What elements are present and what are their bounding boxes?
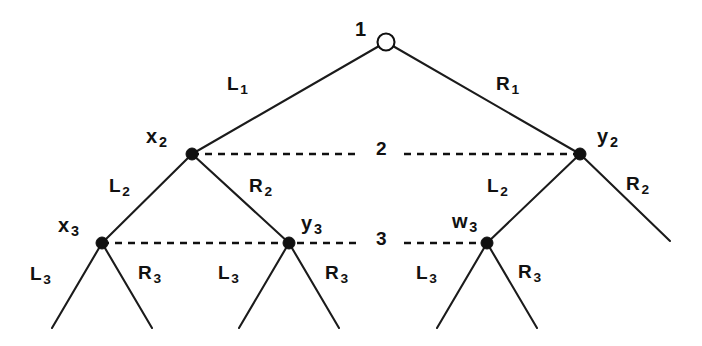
edge-label-R2-right-sub: 2 — [641, 182, 649, 197]
edge-label-R2-right-text: R — [626, 173, 640, 194]
edge-label-L1-text: L — [227, 73, 239, 94]
level-2-link-label: 2 — [376, 139, 387, 158]
node-label-x2-sub: 2 — [159, 134, 168, 150]
node-label-w3: w3 — [452, 211, 477, 231]
edge-L3-a — [52, 243, 102, 328]
tree-nodes — [96, 34, 586, 250]
node-label-y2: y2 — [597, 126, 617, 146]
edge-label-R3-c-text: R — [518, 261, 532, 282]
node-label-x3: x3 — [58, 215, 78, 235]
tree-diagram-figure: 1 x2 y2 x3 y3 w3 L1 R1 L2 R2 L2 R2 L3 R3… — [0, 0, 702, 346]
node-w3[interactable] — [481, 237, 493, 249]
edge-label-L3-a-text: L — [30, 263, 42, 284]
node-label-x3-sub: 3 — [71, 223, 80, 239]
node-root[interactable] — [378, 34, 395, 51]
node-label-y3-sub: 3 — [314, 221, 323, 237]
edge-label-R1-sub: 1 — [511, 82, 519, 97]
node-label-y2-text: y — [597, 125, 609, 147]
node-label-y3-text: y — [301, 212, 313, 234]
edge-label-L3-b: L3 — [218, 263, 238, 282]
edge-label-L2-right: L2 — [487, 176, 507, 195]
node-label-x2-text: x — [146, 125, 158, 147]
edge-label-R3-a: R3 — [138, 263, 160, 282]
edge-L3-c — [437, 243, 487, 328]
edge-label-L3-c: L3 — [416, 263, 436, 282]
edge-label-R3-c-sub: 3 — [533, 270, 541, 285]
edge-label-R2-left-sub: 2 — [264, 184, 272, 199]
edge-label-R2-right: R2 — [626, 174, 648, 193]
node-label-w3-sub: 3 — [469, 219, 478, 235]
edge-label-R2-left: R2 — [249, 176, 271, 195]
node-y3[interactable] — [283, 237, 295, 249]
edge-label-L3-b-text: L — [218, 262, 230, 283]
level-3-link-label: 3 — [376, 229, 387, 248]
tree-diagram-canvas — [0, 0, 702, 346]
edge-label-L2-left-text: L — [109, 175, 121, 196]
edge-label-L2-right-sub: 2 — [500, 184, 508, 199]
edge-R3-c — [487, 243, 537, 328]
node-label-root: 1 — [355, 19, 367, 39]
edge-label-R3-b-text: R — [325, 262, 339, 283]
edge-R2-right — [580, 154, 670, 241]
edge-label-L2-left-sub: 2 — [122, 184, 130, 199]
edge-label-L3-a: L3 — [30, 264, 50, 283]
edge-label-R3-b-sub: 3 — [340, 271, 348, 286]
edge-label-R1-text: R — [496, 73, 510, 94]
node-x2[interactable] — [186, 148, 198, 160]
edge-label-R3-c: R3 — [518, 262, 540, 281]
node-label-y2-sub: 2 — [610, 134, 619, 150]
edge-label-R3-b: R3 — [325, 263, 347, 282]
edge-label-L1: L1 — [227, 74, 247, 93]
edge-label-R3-a-text: R — [138, 262, 152, 283]
edge-R3-a — [102, 243, 152, 328]
edge-label-R3-a-sub: 3 — [153, 271, 161, 286]
node-label-x3-text: x — [58, 214, 70, 236]
edge-label-R2-left-text: R — [249, 175, 263, 196]
edge-label-L3-c-text: L — [416, 262, 428, 283]
node-label-w3-text: w — [452, 210, 468, 232]
edge-L2-left — [102, 154, 192, 243]
edge-label-L3-a-sub: 3 — [43, 272, 51, 287]
edge-R1 — [386, 42, 580, 154]
edge-label-L3-b-sub: 3 — [231, 271, 239, 286]
node-x3[interactable] — [96, 237, 108, 249]
tree-edges — [52, 42, 670, 328]
node-label-root-text: 1 — [355, 18, 367, 40]
edge-L3-b — [239, 243, 289, 328]
level-link-lines — [102, 154, 580, 243]
edge-L1 — [192, 42, 386, 154]
edge-label-L2-left: L2 — [109, 176, 129, 195]
node-label-y3: y3 — [301, 213, 321, 233]
edge-R2-left — [192, 154, 289, 243]
edge-R3-b — [289, 243, 339, 328]
edge-label-L3-c-sub: 3 — [429, 271, 437, 286]
edge-label-L2-right-text: L — [487, 175, 499, 196]
node-label-x2: x2 — [146, 126, 166, 146]
edge-label-R1: R1 — [496, 74, 518, 93]
node-y2[interactable] — [574, 148, 586, 160]
edge-label-L1-sub: 1 — [240, 82, 248, 97]
